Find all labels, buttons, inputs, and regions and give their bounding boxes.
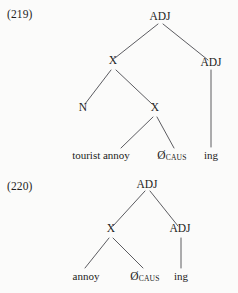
node-x-lower-219: X xyxy=(151,101,159,114)
branch-x-to-x-lower xyxy=(116,70,152,104)
leaf-zero-caus-220: ØCAUS xyxy=(130,270,159,285)
leaf-ing-220: ing xyxy=(174,270,188,283)
branch-xlower-to-annoy xyxy=(121,117,153,148)
node-adj-root-220: ADJ xyxy=(136,178,157,191)
zero-morpheme-subscript-219: CAUS xyxy=(166,153,187,162)
branch-x-to-annoy-220 xyxy=(85,238,109,268)
branch-xlower-to-zero xyxy=(157,117,174,148)
example-219: (219) ADJ X ADJ N X xyxy=(0,0,238,174)
zero-morpheme-subscript-220: CAUS xyxy=(139,274,160,283)
leaf-zero-caus-219: ØCAUS xyxy=(157,149,186,164)
branch-x-to-zero-220 xyxy=(113,238,143,268)
syntax-tree-219: ADJ X ADJ N X tourist annoy ØCAUS ing xyxy=(0,0,238,174)
branch-root-to-x-220 xyxy=(113,191,145,226)
leaf-annoy-220: annoy xyxy=(73,270,100,283)
leaf-tourist-annoy-219: tourist annoy xyxy=(72,149,130,162)
branch-root-to-adj-220 xyxy=(150,191,178,226)
node-adj-right-219: ADJ xyxy=(200,56,221,69)
node-adj-root-219: ADJ xyxy=(149,10,170,23)
node-adj-right-220: ADJ xyxy=(169,222,190,235)
syntax-tree-220: ADJ X ADJ annoy ØCAUS ing xyxy=(0,174,238,293)
leaf-ing-219: ing xyxy=(204,149,218,162)
node-x-upper-219: X xyxy=(109,54,117,67)
node-n-219: N xyxy=(79,101,87,114)
page-canvas: (219) ADJ X ADJ N X xyxy=(0,0,238,293)
branch-root-to-adj xyxy=(163,24,208,60)
node-x-220: X xyxy=(107,222,115,235)
branch-root-to-x xyxy=(115,24,158,58)
example-220: (220) ADJ X ADJ annoy ØCAUS ing xyxy=(0,174,238,293)
branch-x-to-n xyxy=(85,70,111,104)
